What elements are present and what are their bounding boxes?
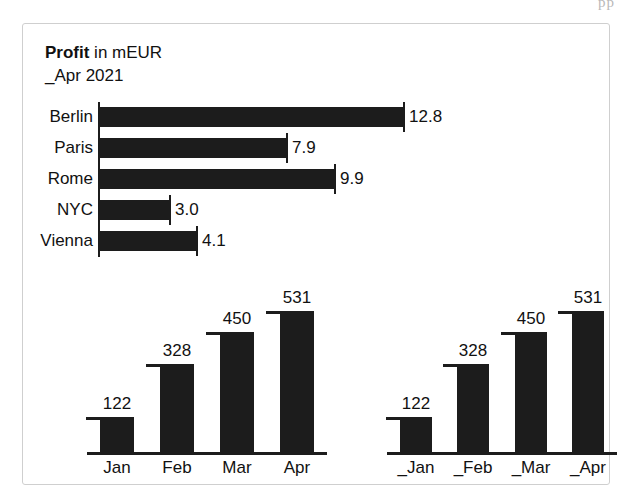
- vbar-column: [515, 335, 547, 452]
- vbar-fill: [572, 314, 604, 452]
- hbar-track: [98, 133, 288, 163]
- hbar-category-label: Paris: [0, 133, 93, 163]
- hbar-end-cap: [403, 102, 405, 132]
- hbar-row: Berlin12.8: [23, 102, 611, 132]
- vbar-top-cap: [386, 417, 432, 420]
- hbar-track: [98, 195, 171, 225]
- vbar-column: [160, 367, 194, 452]
- vbar-fill: [280, 314, 314, 452]
- hbar-fill: [98, 138, 286, 158]
- hbar-category-label: Vienna: [0, 226, 93, 256]
- hbar-row: Vienna4.1: [23, 226, 611, 256]
- vbar-top-cap: [86, 417, 134, 420]
- vertical-bar-chart-left: 122328450531 JanFebMarApr: [59, 292, 331, 482]
- vbar-column: [280, 314, 314, 452]
- vbar-column: [220, 335, 254, 452]
- vbar-top-cap: [501, 332, 547, 335]
- hbar-category-label: NYC: [0, 195, 93, 225]
- vbar-value-label: 328: [457, 341, 489, 361]
- hbar-end-cap: [196, 226, 198, 256]
- hbar-fill: [98, 169, 334, 189]
- hbar-end-cap: [334, 164, 336, 194]
- vbar-top-cap: [206, 332, 254, 335]
- vbar-x-axis-label: _Apr: [556, 458, 620, 478]
- vbar-value-label: 531: [280, 288, 314, 308]
- hbar-end-cap: [286, 133, 288, 163]
- hbar-value-label: 4.1: [202, 226, 226, 256]
- vbar-fill: [220, 335, 254, 452]
- vbar-value-label: 531: [572, 288, 604, 308]
- vbar-top-cap: [443, 364, 489, 367]
- vbar-fill: [515, 335, 547, 452]
- vbar-value-label: 450: [515, 309, 547, 329]
- scan-top-edge-artifact: pp: [598, 0, 615, 11]
- horizontal-bar-chart: Berlin12.8Paris7.9Rome9.9NYC3.0Vienna4.1: [23, 102, 611, 282]
- vbar-value-label: 328: [160, 341, 194, 361]
- vbar-top-cap: [558, 311, 604, 314]
- hbar-row: Paris7.9: [23, 133, 611, 163]
- vbar-column: [400, 420, 432, 452]
- vbar-column: [572, 314, 604, 452]
- heading-strong-word: Profit: [45, 43, 89, 62]
- vbar-plot-area-left: 122328450531: [87, 292, 327, 452]
- hbar-value-label: 9.9: [340, 164, 364, 194]
- vbar-baseline-right: [387, 452, 617, 455]
- hbar-category-label: Rome: [0, 164, 93, 194]
- vbar-column: [457, 367, 489, 452]
- vbar-fill: [457, 367, 489, 452]
- vbar-top-cap: [146, 364, 194, 367]
- vbar-value-label: 122: [400, 394, 432, 414]
- hbar-row: Rome9.9: [23, 164, 611, 194]
- hbar-category-label: Berlin: [0, 102, 93, 132]
- vbar-x-axis-label: Feb: [144, 458, 210, 478]
- heading-rest: in mEUR: [89, 43, 162, 62]
- hbar-fill: [98, 107, 403, 127]
- heading-subtitle: _Apr 2021: [45, 65, 162, 87]
- vbar-x-axis-label: Apr: [264, 458, 330, 478]
- hbar-value-label: 3.0: [175, 195, 199, 225]
- vbar-x-axis-label: _Feb: [441, 458, 505, 478]
- vbar-fill: [160, 367, 194, 452]
- vbar-x-axis-label: _Mar: [499, 458, 563, 478]
- hbar-value-label: 12.8: [409, 102, 442, 132]
- vbar-plot-area-right: 122328450531: [387, 292, 617, 452]
- figure-frame: Profit in mEUR _Apr 2021 Berlin12.8Paris…: [22, 23, 610, 485]
- hbar-fill: [98, 200, 169, 220]
- vbar-value-label: 450: [220, 309, 254, 329]
- vbar-fill: [400, 420, 432, 452]
- hbar-track: [98, 102, 405, 132]
- heading-line-primary: Profit in mEUR: [45, 42, 162, 64]
- vertical-bar-chart-right: 122328450531 _Jan_Feb_Mar_Apr: [359, 292, 621, 482]
- hbar-value-label: 7.9: [292, 133, 316, 163]
- vbar-x-axis-label: Mar: [204, 458, 270, 478]
- vbar-x-axis-label: Jan: [84, 458, 150, 478]
- hbar-track: [98, 164, 336, 194]
- hbar-track: [98, 226, 198, 256]
- vbar-fill: [100, 420, 134, 452]
- hbar-row: NYC3.0: [23, 195, 611, 225]
- hbar-end-cap: [169, 195, 171, 225]
- vbar-top-cap: [266, 311, 314, 314]
- hbar-fill: [98, 231, 196, 251]
- vbar-value-label: 122: [100, 394, 134, 414]
- vbar-column: [100, 420, 134, 452]
- figure-heading: Profit in mEUR _Apr 2021: [45, 42, 162, 87]
- vbar-baseline-left: [87, 452, 327, 455]
- vbar-x-axis-label: _Jan: [384, 458, 448, 478]
